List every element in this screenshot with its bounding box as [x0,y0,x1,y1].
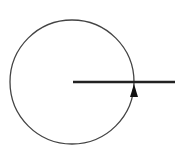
arrow-up-icon [130,84,138,97]
diagram-canvas [0,0,193,150]
